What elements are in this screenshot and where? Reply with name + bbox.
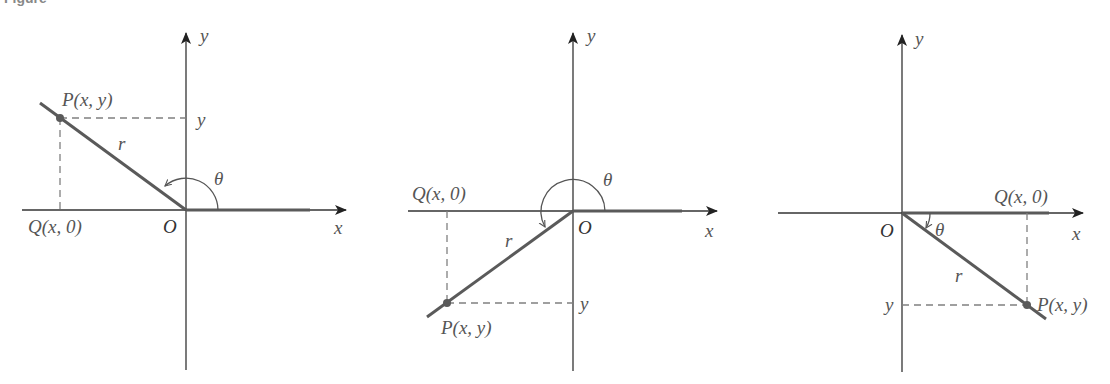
point-label: P(x, y) xyxy=(440,317,492,339)
y-tick-label: y xyxy=(195,109,206,130)
radius-label: r xyxy=(118,133,126,154)
radius-label: r xyxy=(955,265,963,286)
y-tick-label: y xyxy=(883,294,894,315)
foot-label: Q(x, 0) xyxy=(412,183,466,205)
foot-label: Q(x, 0) xyxy=(28,216,82,238)
angle-label: θ xyxy=(935,219,944,240)
y-axis-label: y xyxy=(913,28,924,49)
y-tick-label: y xyxy=(578,293,589,314)
point-p xyxy=(56,114,64,122)
y-axis-label: y xyxy=(198,25,209,46)
origin-label: O xyxy=(880,220,894,241)
angle-arc-icon xyxy=(926,213,930,228)
panel-quadrant-iv: Q(x, 0) O θ r y P(x, y) x y xyxy=(778,28,1088,372)
panel-quadrant-iii: Q(x, 0) θ O r y P(x, y) x y xyxy=(408,25,717,371)
angle-label: θ xyxy=(214,168,223,189)
angle-label: θ xyxy=(603,169,612,190)
radius-label: r xyxy=(505,230,513,251)
angle-in-standard-position-figure: Figure P(x, y) y r θ Q(x, 0) O x y Q(x, … xyxy=(0,0,1110,384)
panel-quadrant-ii: P(x, y) y r θ Q(x, 0) O x y xyxy=(22,25,346,370)
point-p xyxy=(1023,301,1031,309)
point-p xyxy=(443,299,451,307)
origin-label: O xyxy=(578,217,592,238)
y-axis-label: y xyxy=(585,25,596,46)
angle-arc-icon xyxy=(165,178,218,210)
x-axis-label: x xyxy=(704,220,714,241)
point-label: P(x, y) xyxy=(61,89,113,111)
point-label: P(x, y) xyxy=(1036,294,1088,316)
caption-fragment: Figure xyxy=(4,0,47,6)
x-axis-label: x xyxy=(333,217,343,238)
origin-label: O xyxy=(163,216,177,237)
x-axis-label: x xyxy=(1071,223,1081,244)
foot-label: Q(x, 0) xyxy=(994,186,1048,208)
